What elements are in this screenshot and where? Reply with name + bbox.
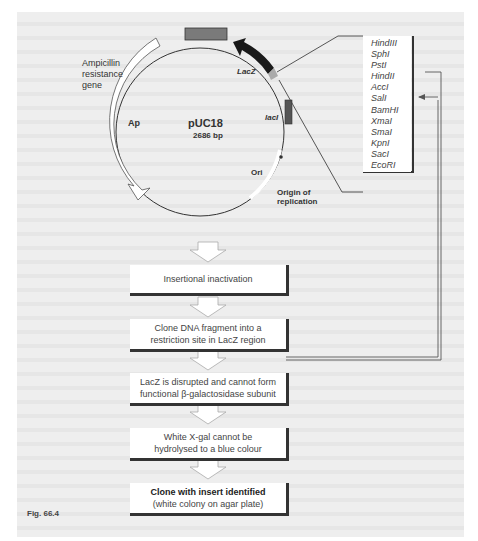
- site-xmai: XmaI: [371, 116, 411, 127]
- flow-step-text: restriction site in LacZ region: [130, 334, 286, 346]
- site-sali: SalI: [371, 93, 411, 104]
- ori-dot: [279, 155, 283, 159]
- flow-step-text: (white colony on agar plate): [130, 498, 286, 510]
- arrow-head-acci: [418, 94, 425, 100]
- flow-step-xgal: White X-gal cannot be hydrolysed to a bl…: [130, 428, 289, 461]
- lacz-label: LacZ: [237, 66, 256, 77]
- laci-label: lacI: [265, 112, 278, 123]
- flow-step-clone-dna: Clone DNA fragment into a restriction si…: [130, 319, 289, 352]
- site-kpni: KpnI: [371, 138, 411, 149]
- flow-step-insertional-inactivation: Insertional inactivation: [130, 265, 289, 296]
- plasmid-name: pUC18: [188, 118, 223, 129]
- flow-step-text: Clone with insert identified: [130, 486, 286, 498]
- flow-step-text: functional β-galactosidase subunit: [130, 388, 286, 400]
- site-bamhi: BamHI: [371, 105, 411, 116]
- site-ecori: EcoRI: [371, 160, 411, 171]
- flow-step-clone-identified: Clone with insert identified (white colo…: [130, 483, 289, 516]
- mcs-pointer-bottom: [279, 80, 363, 192]
- restriction-site-box: HindIII SphI PstI HindII AccI SalI BamHI…: [363, 36, 411, 172]
- site-saci: SacI: [371, 149, 411, 160]
- flow-step-text: hydrolysed to a blue colour: [130, 443, 286, 455]
- flow-step-text: Clone DNA fragment into a: [130, 322, 286, 334]
- top-gene-block: [185, 28, 227, 40]
- laci-gene-block: [285, 100, 292, 124]
- flow-step-text: LacZ is disrupted and cannot form: [130, 376, 286, 388]
- site-sphi: SphI: [371, 49, 411, 60]
- origin-label: Origin of replication: [277, 188, 317, 206]
- flow-step-text: Insertional inactivation: [130, 273, 286, 285]
- ori-label: Ori: [251, 167, 263, 178]
- ap-label: Ap: [128, 118, 140, 129]
- flow-step-lacz-disrupted: LacZ is disrupted and cannot form functi…: [130, 373, 289, 406]
- mcs-pointer-top: [277, 36, 363, 72]
- site-psti: PstI: [371, 60, 411, 71]
- figure-label: Fig. 66.4: [27, 509, 59, 518]
- site-acci: AccI: [371, 82, 411, 93]
- restriction-site-list: HindIII SphI PstI HindII AccI SalI BamHI…: [363, 36, 411, 171]
- flow-step-text: White X-gal cannot be: [130, 431, 286, 443]
- plasmid-size: 2686 bp: [193, 130, 223, 141]
- connector-line-inner: [286, 100, 438, 357]
- site-hindii: HindII: [371, 71, 411, 82]
- site-smai: SmaI: [371, 127, 411, 138]
- ampicillin-label: Ampicillin resistance gene: [82, 58, 123, 91]
- site-hindiii: HindIII: [371, 38, 411, 49]
